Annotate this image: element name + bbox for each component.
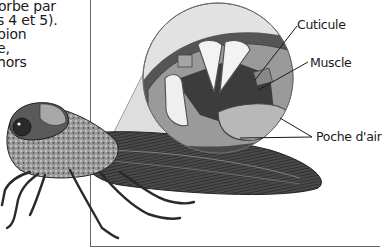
label-cuticle: Cuticule xyxy=(297,17,346,32)
insect-eye xyxy=(13,118,31,136)
air-pocket-shape xyxy=(218,104,288,141)
label-muscle: Muscle xyxy=(310,55,351,70)
label-air-pocket: Poche d'air xyxy=(316,129,382,144)
